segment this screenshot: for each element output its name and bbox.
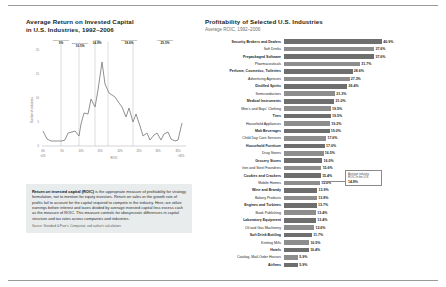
percentile-annotation-mean: Mean 14.9% (84, 39, 110, 46)
bar-category-label: Airlines (205, 263, 284, 267)
bar-row: Grocery Stores16.0% (205, 157, 420, 164)
bar-value-label: 21.0% (336, 99, 346, 103)
bar (284, 225, 314, 230)
svg-text:>35%: >35% (178, 154, 185, 158)
bar (284, 84, 347, 89)
bar-category-label: Advertising Agencies (205, 77, 284, 81)
bar-row: Pharmaceuticals31.7% (205, 60, 420, 67)
bar (284, 62, 360, 67)
svg-text:5: 5 (38, 120, 40, 124)
figure-page: Average Return on Invested Capital in U.… (0, 0, 446, 287)
distribution-svg: 0 5 10 15 20 Number of industries (26, 38, 192, 180)
bar-row: Household Furniture17.0% (205, 142, 420, 149)
bar-category-label: Drug Stores (205, 151, 284, 155)
bar-row: Mobile Homes15.0% (205, 179, 420, 186)
svg-text:0: 0 (38, 144, 40, 148)
percentile-value-p25: 10.5% (66, 45, 94, 48)
bar-category-label: Mobile Homes (205, 181, 284, 185)
average-roic-callout-line2: ROIC in the U.S. (348, 176, 379, 179)
bar-value-label: 10.4% (310, 248, 320, 252)
average-roic-leader-line (323, 181, 345, 182)
bar-category-label: Household Appliances (205, 122, 284, 126)
bar-row: Advertising Agencies27.3% (205, 75, 420, 82)
bar-category-label: Pharmaceuticals (205, 62, 284, 66)
bar-track: 40.9% (284, 38, 420, 45)
bar (284, 121, 330, 126)
bar-value-label: 27.3% (351, 77, 361, 81)
bar (284, 166, 321, 171)
svg-text:30%: 30% (155, 149, 161, 153)
bar-track: 37.6% (284, 53, 420, 60)
bar-row: Drug Stores16.5% (205, 150, 420, 157)
bar-track: 16.0% (284, 157, 420, 164)
bar-track: 10.4% (284, 246, 420, 253)
bar-row: Engines and Turbines13.7% (205, 202, 420, 209)
distribution-line (43, 62, 182, 141)
bar-category-label: Cookies and Crackers (205, 174, 284, 178)
bar (284, 54, 374, 59)
bar (284, 47, 374, 52)
bar-row: Perfume, Cosmetics, Toiletries28.6% (205, 68, 420, 75)
svg-text:20: 20 (36, 48, 39, 52)
bar (284, 158, 322, 163)
bar (284, 196, 317, 201)
x-axis-label: ROIC (111, 156, 118, 160)
bar-row: Security Brokers and Dealers40.9% (205, 38, 420, 45)
bar-value-label: 37.6% (375, 47, 385, 51)
svg-text:20%: 20% (117, 149, 123, 153)
bar-value-label: 5.9% (299, 263, 307, 267)
percentile-annotation-p90: 90th percentile 25.5% (148, 39, 182, 46)
bar-category-label: Child Day Care Services (205, 136, 284, 140)
bar-track: 17.0% (284, 142, 420, 149)
bar-track: 13.9% (284, 187, 420, 194)
bar-track: 19.0% (284, 127, 420, 134)
bar-row: Knitting Mills10.5% (205, 239, 420, 246)
bar-track: 5.9% (284, 261, 420, 268)
bar-category-label: Malt Beverages (205, 129, 284, 133)
svg-text:15%: 15% (97, 149, 103, 153)
bar-track: 5.9% (284, 254, 420, 261)
bar-track: 27.3% (284, 75, 420, 82)
bar-track: 37.6% (284, 45, 420, 52)
bar (284, 77, 350, 82)
bar-row: Catalog, Mail-Order Houses5.9% (205, 254, 420, 261)
svg-text:10: 10 (36, 96, 39, 100)
bar-category-label: Soft Drink Bottling (205, 233, 284, 237)
source-note: Source: Standard & Poor's, Compustat, an… (32, 224, 186, 228)
bar (284, 144, 325, 149)
percentile-annotation-p75: 75th percentile 18.6% (112, 39, 146, 46)
bar-row: Cookies and Crackers15.4% (205, 172, 420, 179)
bar-category-label: Semiconductors (205, 92, 284, 96)
bar-category-label: Household Furniture (205, 144, 284, 148)
roic-definition-lead: Return on invested capital (ROIC) (32, 189, 94, 194)
bar (284, 91, 335, 96)
bar-row: Bakery Products13.8% (205, 194, 420, 201)
bar-track: 21.3% (284, 90, 420, 97)
bar (284, 263, 298, 268)
bar-category-label: Laboratory Equipment (205, 218, 284, 222)
average-roic-callout: Average industry ROIC in the U.S. 14.9% (345, 170, 382, 186)
bar-value-label: 13.4% (317, 211, 327, 215)
bar-track: 13.4% (284, 209, 420, 216)
roic-distribution-chart: 0 5 10 15 20 Number of industries (26, 38, 192, 180)
svg-text:5%: 5% (60, 149, 64, 153)
bar (284, 233, 312, 238)
bar-category-label: Tires (205, 114, 284, 118)
bar (284, 210, 316, 215)
bar-value-label: 13.7% (318, 203, 328, 207)
bar-category-label: Wine and Brandy (205, 188, 284, 192)
bar-row: Hotels10.4% (205, 246, 420, 253)
y-axis-label: Number of industries (30, 97, 34, 123)
bar-row: Malt Beverages19.0% (205, 127, 420, 134)
bar (284, 240, 309, 245)
bar-row: Oil and Gas Machinery12.6% (205, 224, 420, 231)
bar (284, 106, 331, 111)
bar-track: 13.7% (284, 202, 420, 209)
bar (284, 69, 353, 74)
left-chart-panel: Average Return on Invested Capital in U.… (26, 18, 192, 270)
right-chart-panel: Profitability of Selected U.S. Industrie… (205, 18, 420, 33)
bar-category-label: Soft Drinks (205, 47, 284, 51)
left-chart-title: Average Return on Invested Capital in U.… (26, 18, 192, 34)
bar-category-label: Grocery Stores (205, 159, 284, 163)
bar-category-label: Medical Instruments (205, 99, 284, 103)
